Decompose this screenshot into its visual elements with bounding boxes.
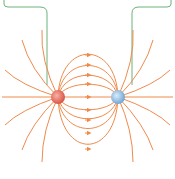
positive-charge [51,90,65,104]
bracket [4,0,171,85]
negative-charge [111,90,125,104]
field-lines [2,30,173,162]
dipole-diagram [0,0,175,179]
field-lines-figure [0,0,175,179]
